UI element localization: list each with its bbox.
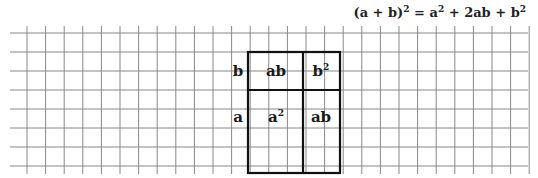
a-base: a (268, 108, 278, 126)
cell-ab-top: ab (266, 62, 286, 80)
a-exponent: 2 (278, 108, 284, 118)
side-label-b: b (233, 62, 244, 80)
b-base: b (313, 62, 324, 80)
cell-a-squared: a2 (268, 108, 284, 126)
graph-paper-grid (0, 0, 538, 178)
side-label-a: a (233, 108, 243, 126)
cell-ab-bottom: ab (311, 108, 331, 126)
cell-b-squared: b2 (313, 62, 330, 80)
b-exponent: 2 (323, 62, 329, 72)
